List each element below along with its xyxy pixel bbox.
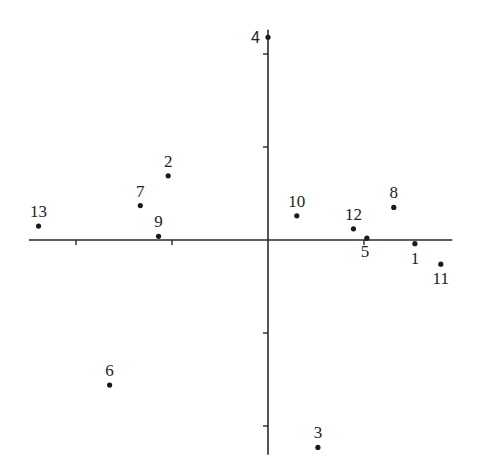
point-labels: 12345678910111213 (30, 29, 449, 442)
data-point-3 (315, 445, 320, 450)
data-point-8 (391, 205, 396, 210)
data-point-2 (166, 173, 171, 178)
data-point-10 (294, 213, 299, 218)
data-point-12 (351, 226, 356, 231)
data-point-7 (138, 203, 143, 208)
data-point-6 (107, 382, 112, 387)
data-point-11 (438, 262, 443, 267)
point-label-6: 6 (105, 361, 114, 380)
point-label-3: 3 (314, 423, 323, 442)
points (36, 35, 443, 450)
scatter-chart: 12345678910111213 (0, 0, 480, 473)
point-label-8: 8 (390, 183, 399, 202)
point-label-7: 7 (136, 182, 145, 201)
data-point-9 (156, 234, 161, 239)
point-label-12: 12 (345, 205, 362, 224)
axes (29, 30, 452, 455)
point-label-11: 11 (433, 269, 449, 288)
point-label-10: 10 (288, 192, 305, 211)
data-point-13 (36, 223, 41, 228)
data-point-1 (412, 241, 417, 246)
point-label-13: 13 (30, 202, 47, 221)
data-point-5 (364, 236, 369, 241)
point-label-2: 2 (164, 152, 173, 171)
point-label-5: 5 (361, 242, 370, 261)
point-label-9: 9 (154, 212, 163, 231)
data-point-4 (265, 35, 270, 40)
point-label-4: 4 (251, 29, 260, 46)
point-label-1: 1 (411, 249, 420, 268)
